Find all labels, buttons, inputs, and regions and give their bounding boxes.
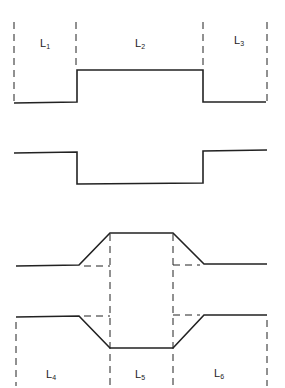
waveform-trap-positive: [16, 233, 267, 266]
label-l1: L1: [40, 37, 50, 50]
label-l5: L5: [135, 368, 145, 381]
pulse-diagram: L1 L2 L3 L4 L5 L6: [0, 0, 285, 388]
waveform-trap-negative: [16, 315, 267, 348]
waveform-rect-positive: [14, 70, 266, 103]
waveform-rect-negative: [14, 150, 267, 184]
top-region-labels: L1 L2 L3: [40, 34, 244, 50]
label-l6: L6: [214, 367, 224, 380]
bottom-region-labels: L4 L5 L6: [46, 367, 224, 381]
label-l3: L3: [234, 34, 244, 47]
region-boundaries-top: [14, 22, 267, 102]
label-l4: L4: [46, 368, 56, 381]
label-l2: L2: [135, 37, 145, 50]
reference-lines: [16, 234, 267, 386]
